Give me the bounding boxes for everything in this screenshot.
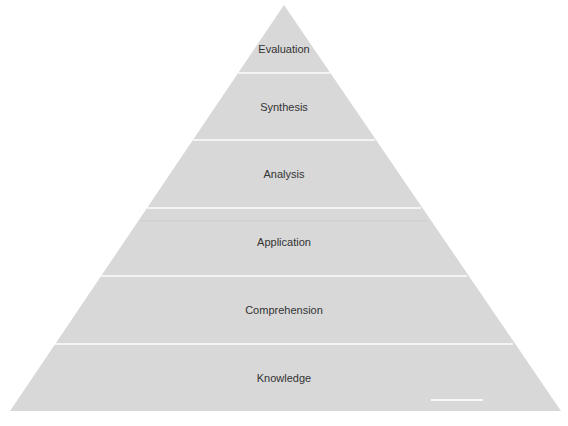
pyramid-graphic [0, 0, 568, 426]
bloom-taxonomy-pyramid: Evaluation Synthesis Analysis Applicatio… [0, 0, 568, 426]
level-evaluation: Evaluation [258, 43, 309, 55]
level-comprehension: Comprehension [245, 304, 323, 316]
level-application: Application [257, 236, 311, 248]
level-synthesis: Synthesis [260, 101, 308, 113]
level-knowledge: Knowledge [257, 372, 311, 384]
level-analysis: Analysis [264, 168, 305, 180]
